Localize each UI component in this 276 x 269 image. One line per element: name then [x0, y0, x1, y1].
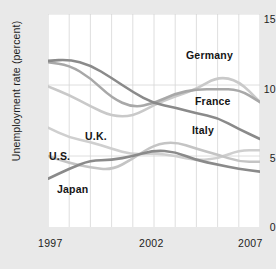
x-tick-1997: 1997 [38, 237, 63, 249]
series-label-japan: Japan [57, 183, 88, 195]
unemployment-line-chart: Unemployment rate (percent) 15 10 5 0 19… [0, 0, 276, 269]
series-label-france: France [195, 95, 231, 107]
plot-area [48, 14, 260, 227]
series-label-italy: Italy [192, 124, 214, 136]
gridlines [48, 14, 260, 227]
plot-svg [48, 14, 260, 227]
x-tick-2002: 2002 [139, 237, 164, 249]
series-label-uk: U.K. [85, 130, 107, 142]
series-label-germany: Germany [186, 49, 233, 61]
x-tick-2007: 2007 [238, 237, 263, 249]
y-axis-title: Unemployment rate (percent) [10, 6, 22, 176]
series-label-us: U.S. [49, 150, 70, 162]
